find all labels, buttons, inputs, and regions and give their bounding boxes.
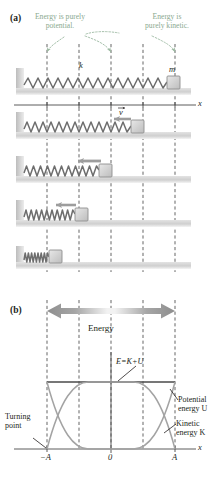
x-axis-label-a: x <box>198 99 202 108</box>
block-2 <box>131 120 144 133</box>
leader-line-kinetic-right <box>152 36 175 52</box>
frame-4 <box>16 200 191 227</box>
leader-turning-point <box>33 438 46 448</box>
kinetic-energy-label-line2: energy K <box>176 429 205 438</box>
spring-4 <box>24 210 75 220</box>
frame-2 <box>16 112 191 139</box>
mass-label: m <box>169 65 175 74</box>
block-3 <box>99 164 112 177</box>
tick-label-zero: 0 <box>108 453 112 462</box>
x-axis-label-b: x <box>198 443 202 452</box>
callout-kinetic-line2: purely kinetic. <box>126 22 208 31</box>
velocity-label: v <box>119 108 123 117</box>
leader-line-kinetic-left <box>85 36 111 52</box>
callout-leader-lines <box>47 32 175 52</box>
spring-1 <box>24 78 167 88</box>
callout-potential: Energy is purely potential. <box>22 13 98 31</box>
leader-line-bridge <box>86 32 119 34</box>
wall-1 <box>16 68 24 90</box>
total-energy-label: E=K+U <box>116 358 143 367</box>
energy-double-arrow <box>47 304 175 319</box>
turning-point-label: Turning point <box>5 413 31 431</box>
potential-energy-label-line2: energy U <box>178 405 207 414</box>
ground-5 <box>16 262 191 269</box>
panel-a-tag: (a) <box>10 14 21 24</box>
kinetic-energy-label: Kinetic energy K <box>176 420 205 438</box>
spring-2 <box>24 122 131 132</box>
panel-b-tag: (b) <box>10 306 22 316</box>
spring-5 <box>24 253 49 262</box>
energy-arrow-label: Energy <box>88 324 114 333</box>
ground-2 <box>16 132 191 139</box>
wall-3 <box>16 156 24 178</box>
velocity-vector-hat-icon <box>118 103 126 107</box>
block-4 <box>75 208 88 221</box>
reference-dashed-lines-a <box>47 44 175 272</box>
wall-4 <box>16 200 24 222</box>
block-1 <box>167 76 180 89</box>
spring-constant-label: k <box>79 61 83 70</box>
wall-2 <box>16 112 24 134</box>
ground-4 <box>16 220 191 227</box>
figure-shm-energy: (a) Energy is purely potential. Energy i… <box>0 0 212 478</box>
tick-label-plus-a: A <box>172 453 177 462</box>
x-axis-a <box>14 102 196 108</box>
potential-energy-label: Potential energy U <box>178 396 207 414</box>
turning-point-label-line2: point <box>5 422 31 431</box>
block-5 <box>49 250 62 263</box>
callout-potential-line2: potential. <box>22 22 98 31</box>
leader-line-potential <box>47 37 64 52</box>
callout-kinetic: Energy is purely kinetic. <box>126 13 208 31</box>
frame-1 <box>16 68 191 95</box>
frame-3 <box>16 156 191 183</box>
spring-3 <box>24 166 99 176</box>
ground-1 <box>16 88 191 95</box>
tick-label-minus-a: −A <box>40 453 51 462</box>
frame-5 <box>16 246 191 269</box>
leader-total-energy <box>118 366 136 381</box>
